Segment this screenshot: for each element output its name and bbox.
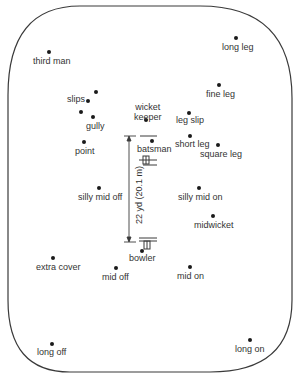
fielder-dot-extra-cover <box>51 256 55 260</box>
fielder-label-midwicket: midwicket <box>194 220 234 230</box>
fielder-dot-long-leg <box>234 36 238 40</box>
fielder-label-mid-on: mid on <box>177 271 204 281</box>
fielder-label-slips: slips <box>67 94 85 104</box>
fielder-label-silly-mid-on: silly mid on <box>178 192 223 202</box>
fielder-dot-short-leg <box>188 134 192 138</box>
fielder-dot-long-off <box>50 342 54 346</box>
fielder-label-point: point <box>75 146 95 156</box>
fielder-dot-batsman <box>150 139 154 143</box>
fielder-label-long-off: long off <box>37 347 66 357</box>
fielder-dot-gully <box>91 115 95 119</box>
fielder-dot-mid-off <box>114 266 118 270</box>
fielder-dot-silly-mid-off <box>97 186 101 190</box>
fielder-dot-third-man <box>47 50 51 54</box>
fielder-label-bowler: bowler <box>129 253 156 263</box>
fielder-dot-silly-mid-on <box>197 186 201 190</box>
fielder-dot-midwicket <box>211 214 215 218</box>
fielder-label-leg-slip: leg slip <box>176 115 204 125</box>
fielder-dot-long-on <box>248 338 252 342</box>
fielder-dot-slip-2 <box>86 99 90 103</box>
fielder-label-third-man: third man <box>33 56 71 66</box>
fielder-dot-fine-leg <box>217 83 221 87</box>
fielder-dot-slips <box>94 90 98 94</box>
fielder-label-square-leg: square leg <box>200 149 242 159</box>
fielder-label-long-on: long on <box>235 344 265 354</box>
fielder-label-short-leg: short leg <box>175 139 210 149</box>
fielder-dot-slip-3 <box>79 110 83 114</box>
fielder-label-long-leg: long leg <box>222 42 254 52</box>
fielder-dot-point <box>82 140 86 144</box>
fielder-label-fine-leg: fine leg <box>206 89 235 99</box>
fielder-label-silly-mid-off: silly mid off <box>78 192 122 202</box>
fielder-label-extra-cover: extra cover <box>36 262 81 272</box>
pitch-length-label: 22 yd (20.1 m) <box>134 166 144 224</box>
fielder-label-gully: gully <box>86 121 105 131</box>
fielder-dot-square-leg <box>216 143 220 147</box>
fielder-dot-mid-on <box>188 265 192 269</box>
fielder-label-batsman: batsman <box>137 144 172 154</box>
fielder-label-mid-off: mid off <box>102 272 129 282</box>
fielder-label-wicket-keeper: wicketkeeper <box>134 102 162 122</box>
bowler-stumps <box>139 238 157 249</box>
